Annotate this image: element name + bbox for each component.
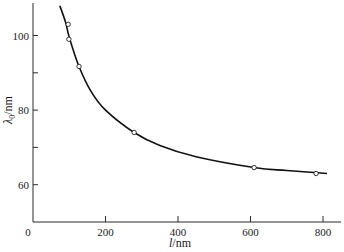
x-tick-label: 800 — [315, 226, 332, 238]
data-point — [314, 171, 318, 175]
data-point — [77, 64, 81, 68]
data-point — [67, 37, 71, 41]
x-ticks: 0200400600800 — [25, 216, 332, 238]
y-tick-label: 60 — [18, 179, 30, 191]
y-axis-label: λ0/nm — [1, 95, 17, 125]
y-tick-label: 100 — [13, 30, 30, 42]
data-markers — [66, 22, 318, 176]
x-axis-label: l/nm — [169, 236, 192, 250]
y-tick-label: 80 — [18, 104, 30, 116]
x-tick-label: 600 — [242, 226, 259, 238]
data-point — [252, 165, 256, 169]
data-point — [132, 130, 136, 134]
y-ticks: 6080100 — [13, 30, 39, 191]
x-tick-label: 0 — [25, 226, 31, 238]
data-point — [66, 22, 70, 26]
fit-curve — [60, 6, 327, 174]
chart: 6080100 0200400600800 l/nm λ0/nm — [0, 0, 344, 252]
x-tick-label: 200 — [97, 226, 114, 238]
